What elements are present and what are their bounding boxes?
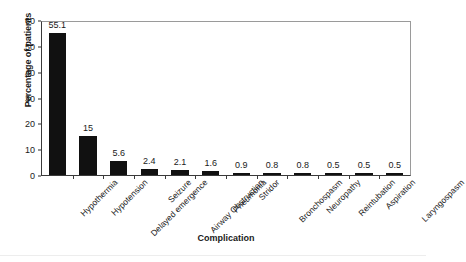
bar-value-label: 2.1	[174, 158, 187, 167]
bar: 0.8	[263, 173, 280, 176]
bar-category: 2.1	[165, 22, 196, 175]
bar-category: 15	[73, 22, 104, 175]
y-tick-label-0: 0	[30, 172, 35, 181]
bar-value-label: 0.5	[388, 161, 401, 170]
y-tick-label-20: 20	[25, 120, 35, 129]
bar-value-label: 1.6	[204, 159, 217, 168]
bar-category: 0.5	[318, 22, 349, 175]
y-tick-label-10: 10	[25, 146, 35, 155]
bar-category: 1.6	[195, 22, 226, 175]
scan-artifact-line	[0, 255, 426, 256]
y-tick-label-50: 50	[25, 42, 35, 51]
bar-category: 5.6	[103, 22, 134, 175]
y-tick-label-60: 60	[25, 17, 35, 26]
bar-value-label: 55.1	[49, 21, 67, 30]
bar: 0.5	[325, 173, 342, 176]
bar: 0.5	[355, 173, 372, 176]
bar-category: 2.4	[134, 22, 165, 175]
bar-category: 0.8	[257, 22, 288, 175]
bar: 2.4	[141, 169, 158, 175]
bar: 0.5	[386, 173, 403, 176]
bar-category: 0.8	[287, 22, 318, 175]
bar: 55.1	[49, 33, 66, 175]
bar: 2.1	[171, 170, 188, 175]
bar-value-label: 0.8	[266, 161, 279, 170]
plot-area: 55.1155.62.42.11.60.90.80.80.50.50.5	[41, 21, 411, 176]
bar-category: 55.1	[42, 22, 73, 175]
bar-value-label: 0.5	[327, 161, 340, 170]
bar-value-label: 15	[83, 124, 93, 133]
bar-series: 55.1155.62.42.11.60.90.80.80.50.50.5	[42, 22, 410, 175]
bar: 0.9	[233, 173, 250, 176]
bar-category: 0.5	[379, 22, 410, 175]
bar-value-label: 5.6	[112, 149, 125, 158]
bar-category: 0.5	[349, 22, 380, 175]
x-category-label: Laryngospasm	[421, 178, 466, 223]
y-tick-label-40: 40	[25, 68, 35, 77]
bar-value-label: 2.4	[143, 157, 156, 166]
bar: 15	[79, 136, 96, 175]
bar: 1.6	[202, 171, 219, 175]
bar-value-label: 0.5	[358, 161, 371, 170]
x-axis-title: Complication	[41, 233, 411, 243]
y-tick-label-30: 30	[25, 94, 35, 103]
bar-category: 0.9	[226, 22, 257, 175]
bar-value-label: 0.9	[235, 161, 248, 170]
x-axis-category-labels: HypothermiaHypotensionDelayed emergenceS…	[41, 178, 411, 236]
bar: 0.8	[294, 173, 311, 176]
bar-value-label: 0.8	[296, 161, 309, 170]
bar: 5.6	[110, 161, 127, 175]
y-axis-tick-labels: 0102030405060	[14, 21, 38, 176]
